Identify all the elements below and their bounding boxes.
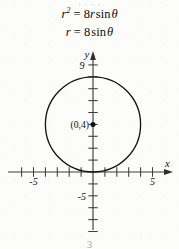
center-point-marker bbox=[91, 122, 96, 127]
x-axis-label: x bbox=[164, 158, 170, 169]
equation2-function: sin bbox=[91, 25, 106, 39]
polar-circle-graph: y x 9 -5 -5 5 (0,4) bbox=[0, 44, 179, 234]
equation1-angle: θ bbox=[111, 7, 117, 21]
y-tick-label-9: 9 bbox=[80, 60, 85, 71]
equation1-rhs-variable: r bbox=[90, 7, 95, 21]
equation2-angle: θ bbox=[107, 25, 113, 39]
bottom-cropped-text-fragment: 3 bbox=[0, 239, 179, 249]
x-tick-label-neg5: -5 bbox=[29, 176, 37, 187]
y-axis-label: y bbox=[84, 49, 90, 60]
x-tick-label-5: 5 bbox=[150, 176, 155, 187]
graph-svg: y x 9 -5 -5 5 (0,4) bbox=[0, 44, 179, 234]
top-cropped-text-fragment: · · · · bbox=[0, 0, 179, 5]
equation-line-1: r2 = 8r sin θ bbox=[0, 6, 179, 22]
equation1-function: sin bbox=[96, 7, 111, 21]
equation2-lhs-variable: r bbox=[66, 25, 71, 39]
center-point-label: (0,4) bbox=[71, 119, 89, 131]
x-axis-arrowhead bbox=[164, 169, 173, 175]
equation2-equals: = bbox=[74, 25, 81, 39]
y-tick-label-neg5: -5 bbox=[78, 191, 86, 202]
equation1-equals: = bbox=[73, 7, 80, 21]
y-axis-arrowhead bbox=[90, 51, 96, 60]
equation1-exponent: 2 bbox=[66, 6, 70, 15]
equation-line-2: r = 8 sin θ bbox=[0, 25, 179, 40]
equation2-coefficient: 8 bbox=[84, 25, 90, 39]
figure-page: · · · · r2 = 8r sin θ r = 8 sin θ bbox=[0, 0, 179, 249]
